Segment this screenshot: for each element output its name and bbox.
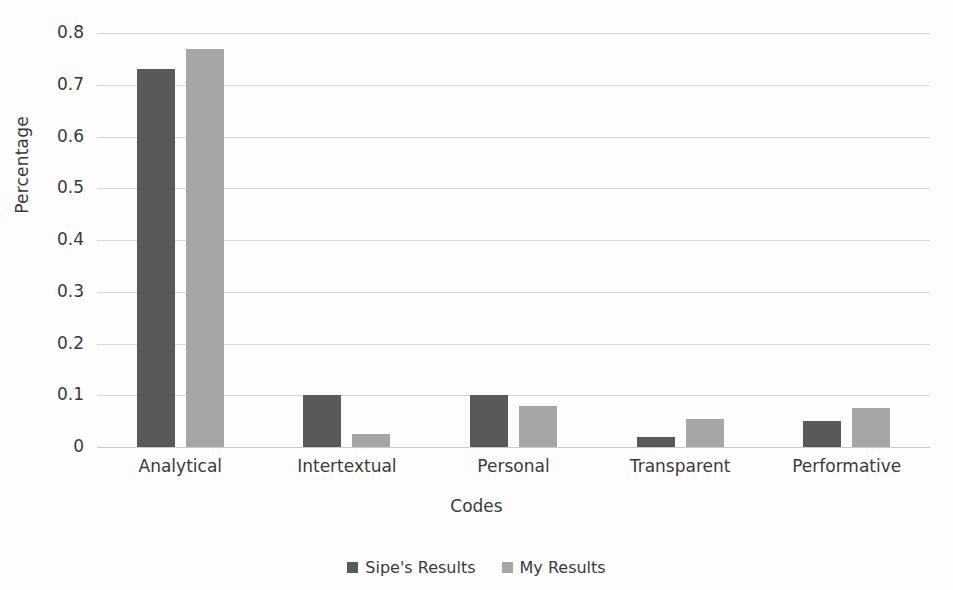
bar: [186, 49, 224, 447]
bar: [352, 434, 390, 447]
y-axis-tick-label: 0.7: [28, 76, 84, 93]
bar: [686, 419, 724, 447]
y-axis-tick-label: 0.5: [28, 179, 84, 196]
bar: [803, 421, 841, 447]
bar-chart: Percentage 0.80.70.60.50.40.30.20.10 Ana…: [0, 0, 953, 590]
y-axis-tick-label: 0.8: [28, 24, 84, 41]
bar-group: [803, 33, 890, 447]
bar: [303, 395, 341, 447]
bar-group: [137, 33, 224, 447]
plot-area: [97, 33, 930, 447]
legend-label: Sipe's Results: [365, 558, 475, 577]
legend-item[interactable]: Sipe's Results: [347, 558, 475, 577]
square-swatch-light-icon: [502, 562, 513, 573]
legend-label: My Results: [520, 558, 606, 577]
bar-group: [470, 33, 557, 447]
x-axis-tick-label: Performative: [763, 456, 930, 476]
square-swatch-dark-icon: [347, 562, 358, 573]
bar: [470, 395, 508, 447]
legend: Sipe's ResultsMy Results: [0, 558, 953, 577]
y-axis-tick-label: 0.4: [28, 231, 84, 248]
bar: [519, 406, 557, 447]
x-axis-tick-label: Intertextual: [264, 456, 431, 476]
y-axis-tick-label: 0.1: [28, 386, 84, 403]
x-axis-tick-label: Analytical: [97, 456, 264, 476]
x-axis-title: Codes: [0, 496, 953, 516]
x-axis-tick-label: Transparent: [597, 456, 764, 476]
bar: [852, 408, 890, 447]
gridline: [97, 447, 930, 448]
y-axis-tick-label: 0: [28, 438, 84, 455]
x-axis-tick-label: Personal: [430, 456, 597, 476]
bar-group: [303, 33, 390, 447]
x-axis-tick-labels: AnalyticalIntertextualPersonalTransparen…: [97, 456, 930, 486]
bar: [137, 69, 175, 447]
bar-group: [637, 33, 724, 447]
bar: [637, 437, 675, 447]
legend-item[interactable]: My Results: [502, 558, 606, 577]
y-axis-tick-label: 0.2: [28, 335, 84, 352]
y-axis-tick-label: 0.6: [28, 128, 84, 145]
y-axis-tick-label: 0.3: [28, 283, 84, 300]
